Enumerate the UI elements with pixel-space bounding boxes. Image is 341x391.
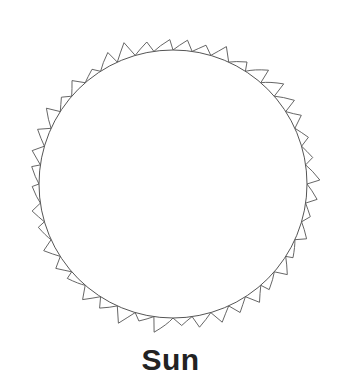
sun-disc [39,50,307,318]
sun-diagram [0,0,341,391]
sun-label: Sun [0,343,341,377]
